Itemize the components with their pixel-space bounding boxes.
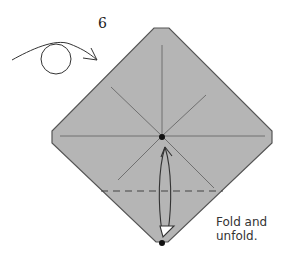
- caption-line-2: unfold.: [216, 229, 267, 243]
- caption-line-1: Fold and: [216, 215, 267, 229]
- center-dot: [159, 134, 165, 140]
- turn-over-arrow-icon: [12, 42, 97, 74]
- step-number: 6: [98, 15, 107, 31]
- bottom-dot: [159, 240, 165, 246]
- instruction-caption: Fold and unfold.: [216, 215, 267, 243]
